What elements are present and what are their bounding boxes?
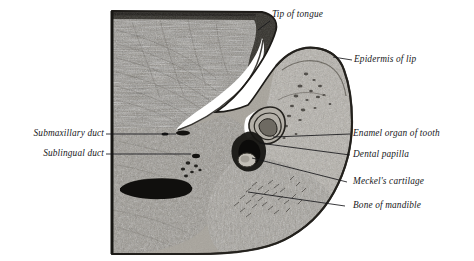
label-dental-papilla: Dental papilla	[353, 149, 409, 159]
label-meckels-cartilage: Meckel's cartilage	[353, 176, 424, 186]
label-sublingual-duct: Sublingual duct	[12, 148, 104, 158]
anatomical-figure: Tip of tongue Epidermis of lip Submaxill…	[0, 0, 474, 261]
meckels-cartilage	[238, 153, 256, 167]
sublingual-duct-lumen	[192, 154, 200, 158]
label-submaxillary-duct: Submaxillary duct	[12, 128, 104, 138]
submaxillary-duct-lumen	[176, 130, 190, 135]
label-enamel-organ-of-tooth: Enamel organ of tooth	[353, 128, 440, 138]
label-bone-of-mandible: Bone of mandible	[353, 200, 421, 210]
label-tip-of-tongue: Tip of tongue	[272, 9, 323, 19]
specimen-body	[100, 0, 380, 261]
label-epidermis-of-lip: Epidermis of lip	[354, 54, 416, 64]
